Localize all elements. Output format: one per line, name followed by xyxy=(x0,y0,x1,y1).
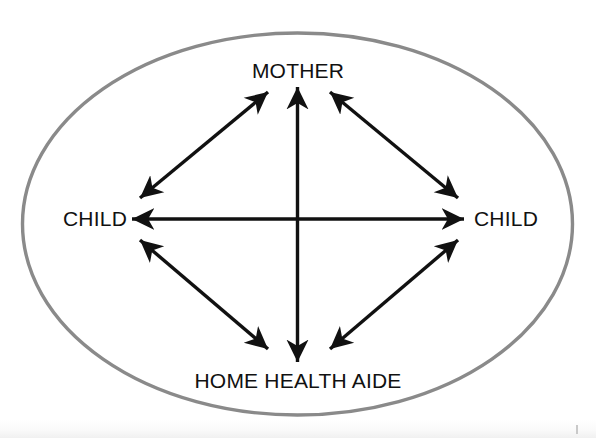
edge-mother-child-left xyxy=(140,92,268,198)
node-label-mother: MOTHER xyxy=(252,60,344,81)
edge-child-left-home-health-aide xyxy=(140,240,268,349)
edge-group xyxy=(132,87,464,362)
node-label-child-left: CHILD xyxy=(63,208,127,229)
node-label-child-right: CHILD xyxy=(474,208,538,229)
node-label-home-health-aide: HOME HEALTH AIDE xyxy=(194,370,401,391)
diagram-canvas: MOTHER CHILD CHILD HOME HEALTH AIDE xyxy=(0,0,596,438)
edge-child-right-home-health-aide xyxy=(330,240,458,349)
edge-mother-child-right xyxy=(330,92,458,198)
